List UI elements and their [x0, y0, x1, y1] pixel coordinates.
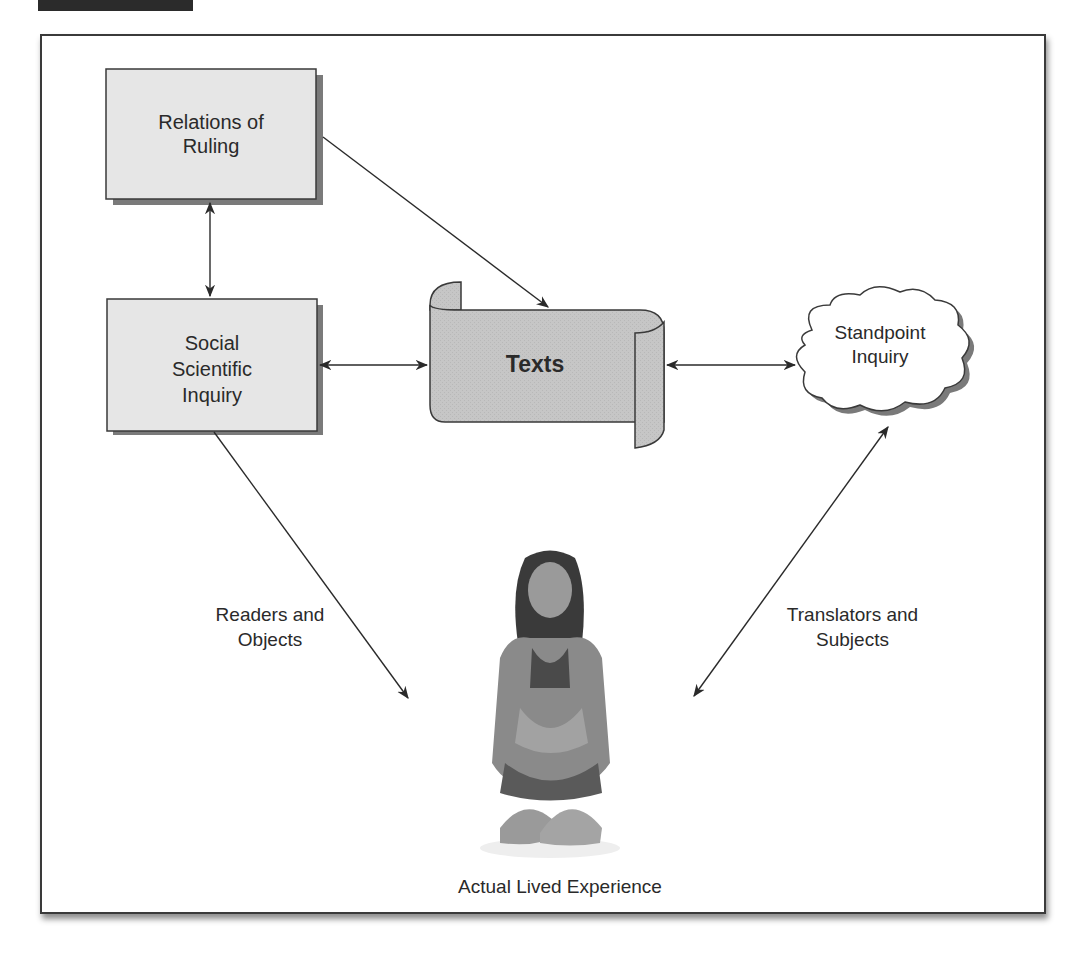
readers-line2: Objects [170, 627, 370, 652]
person-photo [470, 548, 630, 863]
translators-line2: Subjects [745, 627, 960, 652]
standpoint-inquiry-label: Standpoint Inquiry [800, 321, 960, 369]
standpoint-inquiry-line2: Inquiry [800, 345, 960, 369]
relations-of-ruling-label: Relations of Ruling [106, 110, 316, 158]
edge-standpoint-experience [694, 427, 888, 696]
translators-line1: Translators and [745, 602, 960, 627]
actual-lived-experience-caption: Actual Lived Experience [400, 876, 720, 898]
social-scientific-inquiry-line2: Scientific [107, 356, 317, 382]
readers-and-objects-label: Readers and Objects [170, 602, 370, 652]
texts-label: Texts [440, 352, 630, 376]
relations-of-ruling-line2: Ruling [106, 134, 316, 158]
standpoint-inquiry-line1: Standpoint [800, 321, 960, 345]
readers-line1: Readers and [170, 602, 370, 627]
social-scientific-inquiry-line1: Social [107, 330, 317, 356]
edge-social-experience [214, 432, 408, 698]
social-scientific-inquiry-label: Social Scientific Inquiry [107, 330, 317, 408]
relations-of-ruling-line1: Relations of [106, 110, 316, 134]
social-scientific-inquiry-line3: Inquiry [107, 382, 317, 408]
translators-and-subjects-label: Translators and Subjects [745, 602, 960, 652]
edge-ruling-texts [323, 137, 548, 307]
